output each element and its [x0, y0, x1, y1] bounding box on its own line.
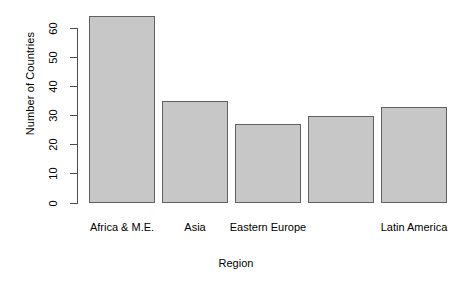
bar-chart: Number of Countries 0102030405060 Africa… — [0, 0, 472, 288]
y-axis-tick-label: 60 — [48, 18, 59, 40]
y-axis-tick-label: 40 — [48, 76, 59, 98]
y-axis-tick — [70, 57, 77, 58]
bar — [381, 107, 447, 203]
y-axis-tick — [70, 144, 77, 145]
x-axis-title: Region — [0, 258, 472, 269]
x-axis-tick-label: Asia — [184, 222, 205, 233]
y-axis-tick — [70, 28, 77, 29]
bar — [235, 124, 301, 203]
y-axis-tick-label: 20 — [48, 134, 59, 156]
y-axis-tick-label: 50 — [48, 47, 59, 69]
y-axis-tick — [70, 115, 77, 116]
bar — [308, 116, 374, 204]
y-axis-tick — [70, 173, 77, 174]
y-axis-tick-label: 30 — [48, 105, 59, 127]
y-axis-line — [77, 28, 78, 204]
x-axis-tick-label: Latin America — [381, 222, 448, 233]
y-axis-tick — [70, 203, 77, 204]
y-axis-title: Number of Countries — [25, 0, 36, 174]
y-axis-tick-label: 0 — [48, 193, 59, 215]
x-axis-tick-label: Eastern Europe — [230, 222, 306, 233]
bar — [162, 101, 228, 203]
x-axis-line — [78, 204, 454, 205]
y-axis-tick — [70, 86, 77, 87]
y-axis-tick-label: 10 — [48, 163, 59, 185]
x-axis-tick-label: Africa & M.E. — [90, 222, 154, 233]
bar — [89, 16, 155, 203]
